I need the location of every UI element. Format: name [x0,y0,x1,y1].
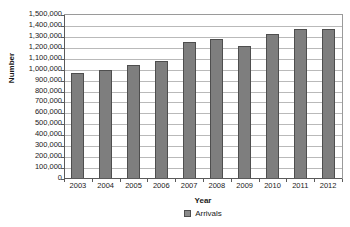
x-axis-tick-label: 2010 [259,181,287,193]
bar-series-arrivals [64,15,342,179]
bar-2009[interactable] [238,46,251,179]
y-axis-tick-label: 1,300,000 [16,32,62,40]
chart-legend: Arrivals [64,209,342,218]
bar-slot [64,15,92,179]
bar-2010[interactable] [266,34,279,179]
bar-slot [314,15,342,179]
bar-slot [175,15,203,179]
bar-2006[interactable] [155,61,168,179]
x-axis-tick-label: 2011 [286,181,314,193]
x-axis-tick-label: 2012 [314,181,342,193]
bar-slot [203,15,231,179]
y-axis-line [64,15,65,179]
x-axis-tick-label: 2003 [64,181,92,193]
bar-slot [259,15,287,179]
bar-slot [147,15,175,179]
bar-2007[interactable] [183,42,196,179]
bar-2011[interactable] [294,29,307,179]
bar-2005[interactable] [127,65,140,179]
bar-2008[interactable] [210,39,223,179]
y-axis-tick-label: 1,200,000 [16,43,62,51]
bar-slot [231,15,259,179]
y-axis-tick-label: 800,000 [16,87,62,95]
y-axis-tick-label: 1,400,000 [16,21,62,29]
x-axis-tick-label: 2009 [231,181,259,193]
y-axis-tick-label: 600,000 [16,108,62,116]
y-axis-tick-label: 1,000,000 [16,65,62,73]
x-axis-tick-label: 2008 [203,181,231,193]
y-axis-tick-label: 300,000 [16,141,62,149]
y-axis-tick-label: 400,000 [16,130,62,138]
x-axis-tick-label: 2007 [175,181,203,193]
x-axis-tick-label: 2006 [147,181,175,193]
bar-2012[interactable] [322,29,335,179]
bar-slot [286,15,314,179]
y-axis-tick-labels: 1,500,0001,400,0001,300,0001,200,0001,10… [16,12,62,178]
bar-slot [92,15,120,179]
plot-area [64,14,343,179]
y-axis-tick-label: 1,500,000 [16,10,62,18]
x-axis-title: Year [64,196,342,205]
bar-slot [120,15,148,179]
y-axis-tick-label: 200,000 [16,152,62,160]
legend-label: Arrivals [195,209,222,218]
y-axis-tick-label: 500,000 [16,119,62,127]
x-axis-line [64,178,342,179]
y-axis-tick-label: 1,100,000 [16,54,62,62]
x-axis-tick-label: 2004 [92,181,120,193]
x-axis-tick-labels: 2003200420052006200720082009201020112012 [64,181,342,193]
x-axis-tick [342,179,343,182]
y-axis-tick-label: 700,000 [16,97,62,105]
y-axis-tick-label: 900,000 [16,76,62,84]
bar-2003[interactable] [71,73,84,179]
bar-chart: Number 1,500,0001,400,0001,300,0001,200,… [0,0,350,227]
legend-swatch-icon [184,210,191,217]
y-axis-tick-label: 100,000 [16,163,62,171]
x-axis-tick-label: 2005 [120,181,148,193]
bar-2004[interactable] [99,70,112,179]
y-axis-tick-label: 0 [16,174,62,182]
